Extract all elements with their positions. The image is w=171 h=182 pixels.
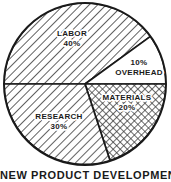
pie-label-overhead-value: 10%: [108, 58, 170, 68]
pie-label-overhead-name: OVERHEAD: [108, 68, 170, 78]
chart-caption: NEW PRODUCT DEVELOPMENT: [0, 169, 171, 181]
pie-label-materials: MATERIALS 20%: [92, 93, 162, 113]
pie-label-materials-value: 20%: [92, 103, 162, 113]
pie-chart-svg: [0, 0, 171, 182]
pie-chart-figure: LABOR 40% 10% OVERHEAD MATERIALS 20% RES…: [0, 0, 171, 182]
pie-label-labor-name: LABOR: [42, 29, 102, 39]
pie-label-research-value: 30%: [24, 122, 94, 132]
pie-label-overhead: 10% OVERHEAD: [108, 58, 170, 78]
pie-label-materials-name: MATERIALS: [92, 93, 162, 103]
pie-label-labor: LABOR 40%: [42, 29, 102, 49]
pie-label-labor-value: 40%: [42, 39, 102, 49]
pie-label-research-name: RESEARCH: [24, 112, 94, 122]
pie-label-research: RESEARCH 30%: [24, 112, 94, 132]
